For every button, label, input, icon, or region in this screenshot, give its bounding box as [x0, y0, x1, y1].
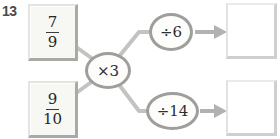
- fraction-flow-diagram: 13 7 9 9 10 ×3 ÷6 ÷: [0, 0, 280, 139]
- start-fraction-box-1: 7 9: [28, 4, 78, 61]
- arrow-right-icon: [200, 104, 227, 118]
- fraction-denominator: 10: [43, 110, 62, 127]
- answer-box-2[interactable]: [226, 80, 277, 136]
- arrow-right-icon: [195, 25, 227, 39]
- operation-multiply-3: ×3: [85, 52, 131, 89]
- fraction-numerator: 9: [46, 91, 60, 109]
- fraction-numerator: 7: [46, 14, 60, 32]
- fraction-denominator: 9: [48, 33, 58, 50]
- fraction-9-10: 9 10: [43, 91, 62, 126]
- operation-label: ×3: [97, 62, 119, 80]
- start-fraction-box-2: 9 10: [28, 81, 78, 138]
- operation-divide-14: ÷14: [146, 92, 199, 130]
- operation-label: ÷6: [160, 23, 182, 41]
- fraction-7-9: 7 9: [46, 14, 60, 49]
- operation-label: ÷14: [157, 102, 189, 120]
- operation-divide-6: ÷6: [149, 13, 193, 51]
- answer-box-1[interactable]: [226, 3, 277, 59]
